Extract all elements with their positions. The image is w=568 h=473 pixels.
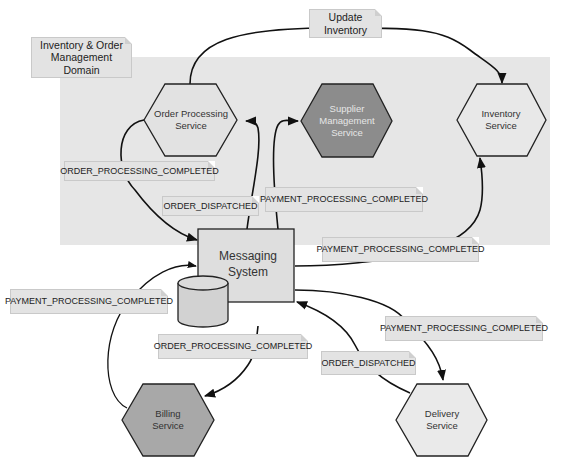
messaging-system-label: Messaging System	[205, 245, 291, 285]
payment-processing-completed-note-2: PAYMENT_PROCESSING_COMPLETED	[322, 237, 479, 262]
inventory-service-label: Inventory Service	[470, 100, 532, 140]
event-label: PAYMENT_PROCESSING_COMPLETED	[316, 244, 484, 254]
order-processing-completed-note-1: ORDER_PROCESSING_COMPLETED	[64, 161, 215, 181]
supplier-management-service-label: Supplier Management Service	[315, 100, 379, 142]
payment-processing-completed-note-1: PAYMENT_PROCESSING_COMPLETED	[265, 187, 423, 212]
billing-service-label: Billing Service	[140, 400, 196, 440]
event-label: ORDER_DISPATCHED	[163, 201, 257, 211]
event-label: PAYMENT_PROCESSING_COMPLETED	[260, 194, 428, 204]
event-label: PAYMENT_PROCESSING_COMPLETED	[5, 296, 173, 306]
domain-label-text: Inventory & Order Management Domain	[32, 39, 131, 75]
domain-label-note: Inventory & Order Management Domain	[31, 37, 132, 78]
edge-payment-processing-completed-1	[273, 120, 298, 229]
order-processing-completed-note-2: ORDER_PROCESSING_COMPLETED	[158, 334, 308, 359]
payment-processing-completed-note-3: PAYMENT_PROCESSING_COMPLETED	[10, 289, 168, 314]
update-inventory-text: Update Inventory	[310, 11, 381, 35]
order-dispatched-note-1: ORDER_DISPATCHED	[162, 196, 259, 216]
payment-processing-completed-note-4: PAYMENT_PROCESSING_COMPLETED	[385, 316, 543, 341]
order-processing-service-label: Order Processing Service	[150, 100, 232, 140]
event-label: ORDER_DISPATCHED	[321, 358, 415, 368]
event-label: PAYMENT_PROCESSING_COMPLETED	[380, 323, 548, 333]
order-dispatched-note-2: ORDER_DISPATCHED	[321, 351, 416, 375]
event-label: ORDER_PROCESSING_COMPLETED	[60, 166, 219, 176]
delivery-service-label: Delivery Service	[410, 400, 474, 440]
update-inventory-note: Update Inventory	[309, 9, 382, 38]
event-label: ORDER_PROCESSING_COMPLETED	[154, 341, 313, 351]
